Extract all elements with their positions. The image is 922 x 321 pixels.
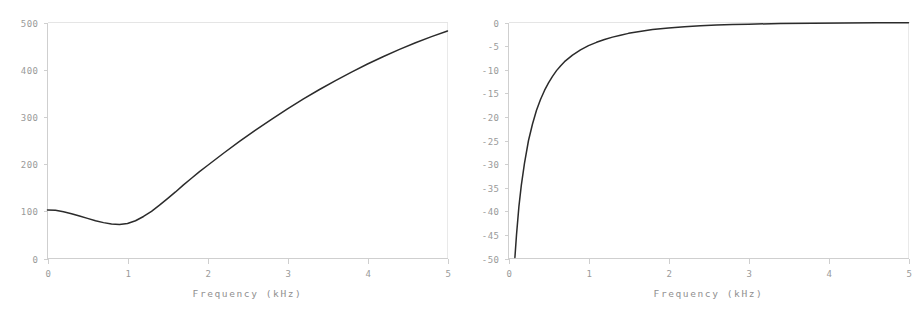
right-chart-panel: 0-5-10-15-20-25-30-35-40-45-50012345Freq… [461,0,922,321]
y-tick-label: 400 [21,66,39,76]
x-axis-title: Frequency (kHz) [654,288,764,299]
y-tick-label: -25 [482,137,500,147]
x-tick-label: 3 [286,269,292,279]
x-axis-title: Frequency (kHz) [193,288,303,299]
y-tick-label: -15 [482,89,500,99]
x-tick-label: 4 [366,269,372,279]
x-tick-label: 5 [446,269,452,279]
axes-group-left-panel: 0100200300400500012345Frequency (kHz) [21,19,452,299]
x-tick-label: 1 [587,269,593,279]
x-tick-label: 0 [507,269,513,279]
two-panel-chart-figure: 0100200300400500012345Frequency (kHz) 0-… [0,0,922,321]
y-tick-label: -5 [488,42,500,52]
x-tick-label: 0 [46,269,52,279]
x-tick-label: 5 [907,269,913,279]
y-tick-label: 0 [494,19,500,29]
y-tick-label: -40 [482,207,500,217]
y-tick-label: -20 [482,113,500,123]
y-tick-label: -10 [482,66,500,76]
y-tick-label: -30 [482,160,500,170]
x-tick-label: 2 [667,269,673,279]
y-tick-label: 100 [21,207,39,217]
y-tick-label: -45 [482,231,500,241]
axes-group-right-panel: 0-5-10-15-20-25-30-35-40-45-50012345Freq… [482,19,913,299]
left-chart-panel: 0100200300400500012345Frequency (kHz) [0,0,461,321]
data-curve-response [48,31,448,225]
x-tick-label: 4 [827,269,833,279]
y-tick-label: -35 [482,184,500,194]
data-curve-response [515,23,909,258]
y-tick-label: 500 [21,19,39,29]
left-chart-svg: 0100200300400500012345Frequency (kHz) [0,0,461,321]
y-tick-label: 200 [21,160,39,170]
y-tick-label: 300 [21,113,39,123]
right-chart-svg: 0-5-10-15-20-25-30-35-40-45-50012345Freq… [461,0,922,321]
x-tick-label: 3 [747,269,753,279]
y-tick-label: -50 [482,255,500,265]
x-tick-label: 2 [206,269,212,279]
y-tick-label: 0 [33,255,39,265]
x-tick-label: 1 [126,269,132,279]
